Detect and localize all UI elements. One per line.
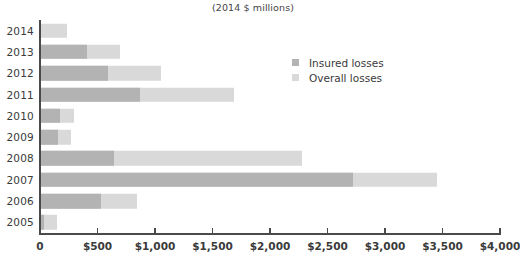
y-tick-label: 2010: [0, 110, 34, 122]
bar-row: 2005: [0, 212, 506, 233]
bar-group: [41, 66, 501, 81]
bar-group: [41, 130, 501, 145]
x-tick-label: $2,000: [250, 240, 291, 252]
bar-row: 2008: [0, 148, 506, 169]
bar-row: 2006: [0, 190, 506, 211]
x-tick-label: $4,000: [480, 240, 520, 252]
bar-group: [41, 87, 501, 102]
y-tick-label: 2006: [0, 195, 34, 207]
y-tick-label: 2013: [0, 46, 34, 58]
legend-label-insured: Insured losses: [309, 57, 384, 69]
y-tick-label: 2005: [0, 216, 34, 228]
legend-item-insured-losses: Insured losses: [292, 56, 384, 69]
bar-segment-insured: [41, 172, 353, 187]
bar-row: 2009: [0, 127, 506, 148]
bar-segment-insured: [41, 45, 87, 60]
bar-row: 2014: [0, 20, 506, 41]
legend-swatch-overall-icon: [292, 74, 299, 81]
chart-legend: Insured losses Overall losses: [292, 56, 384, 86]
bar-segment-insured: [41, 87, 140, 102]
bar-group: [41, 172, 501, 187]
bar-row: 2013: [0, 41, 506, 62]
bar-segment-insured: [41, 215, 44, 230]
bar-segment-insured: [41, 194, 101, 209]
x-tick-label: $1,500: [192, 240, 233, 252]
bar-row: 2012: [0, 63, 506, 84]
x-tick-label: $500: [83, 240, 112, 252]
y-tick-label: 2008: [0, 152, 34, 164]
x-tick-label: $3,500: [422, 240, 463, 252]
bar-segment-insured: [41, 109, 60, 124]
legend-item-overall-losses: Overall losses: [292, 71, 384, 84]
x-tick-label: $2,500: [307, 240, 348, 252]
bar-group: [41, 23, 501, 38]
legend-label-overall: Overall losses: [309, 72, 382, 84]
bar-segment-insured: [41, 151, 114, 166]
bar-row: 2011: [0, 84, 506, 105]
bar-group: [41, 215, 501, 230]
bar-segment-insured: [41, 130, 58, 145]
bar-segment-insured: [41, 66, 108, 81]
x-tick-label: $3,000: [365, 240, 406, 252]
bar-group: [41, 194, 501, 209]
x-tick-label: $1,000: [135, 240, 176, 252]
y-tick-label: 2007: [0, 174, 34, 186]
legend-swatch-insured-icon: [292, 59, 299, 66]
bar-row: 2007: [0, 169, 506, 190]
bar-group: [41, 45, 501, 60]
y-tick-label: 2011: [0, 89, 34, 101]
bar-group: [41, 151, 501, 166]
x-tick-label: 0: [36, 240, 43, 252]
y-tick-label: 2012: [0, 67, 34, 79]
y-tick-label: 2009: [0, 131, 34, 143]
bar-row: 2010: [0, 105, 506, 126]
bar-segment-overall: [41, 23, 67, 38]
bar-group: [41, 109, 501, 124]
y-tick-label: 2014: [0, 25, 34, 37]
